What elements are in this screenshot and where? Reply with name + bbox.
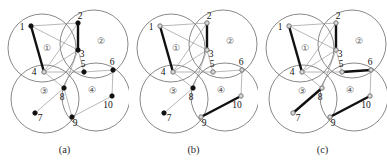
node-1[interactable]: [29, 24, 33, 28]
thin-edge-1-2: [289, 23, 336, 26]
node-5[interactable]: [82, 70, 86, 74]
node-label-6: 6: [368, 57, 373, 67]
node-6[interactable]: [240, 68, 244, 72]
thin-edge-8-9: [64, 88, 72, 117]
node-label-2: 2: [336, 11, 341, 21]
thin-edge-1-2: [160, 23, 207, 26]
node-2[interactable]: [76, 21, 80, 25]
cluster-label-4: ④: [217, 85, 225, 95]
node-label-6: 6: [239, 57, 244, 67]
node-label-1: 1: [149, 22, 154, 32]
cluster-circle-2: [318, 10, 386, 78]
panel-b: ①②③④12345678910 (b): [129, 0, 258, 168]
node-5[interactable]: [340, 70, 344, 74]
node-8[interactable]: [62, 86, 66, 90]
thin-edge-1-2: [31, 23, 78, 26]
node-label-1: 1: [20, 22, 25, 32]
node-label-10: 10: [232, 100, 242, 110]
node-6[interactable]: [369, 68, 373, 72]
node-7[interactable]: [291, 111, 295, 115]
cluster-labels-group: ①②③④: [169, 36, 234, 96]
node-label-3: 3: [80, 49, 85, 59]
node-label-9: 9: [202, 118, 207, 128]
node-1[interactable]: [158, 24, 162, 28]
node-8[interactable]: [191, 86, 195, 90]
node-1[interactable]: [287, 24, 291, 28]
cluster-circle-2: [189, 10, 257, 78]
node-10[interactable]: [368, 94, 372, 98]
node-label-3: 3: [209, 49, 214, 59]
cluster-circle-2: [60, 10, 128, 78]
node-label-8: 8: [60, 92, 65, 102]
node-4[interactable]: [171, 70, 175, 74]
node-label-6: 6: [110, 57, 115, 67]
cluster-label-4: ④: [88, 85, 96, 95]
node-label-4: 4: [32, 67, 37, 77]
thin-edge-5-6: [84, 70, 113, 72]
node-label-4: 4: [290, 67, 295, 77]
thin-edge-6-10: [112, 70, 113, 96]
panel-c-caption: (c): [258, 143, 387, 157]
node-7[interactable]: [33, 111, 37, 115]
cluster-label-4: ④: [346, 85, 354, 95]
thin-edge-6-10: [370, 70, 371, 96]
panel-b-diagram: ①②③④12345678910: [129, 0, 258, 150]
thin-edge-5-6: [213, 70, 242, 72]
thin-edge-3-8: [322, 50, 336, 88]
cluster-label-3: ③: [298, 86, 306, 96]
thin-edge-3-8: [64, 50, 78, 88]
node-label-4: 4: [161, 67, 166, 77]
panel-b-caption: (b): [129, 143, 258, 157]
nodes-group: 12345678910: [149, 11, 245, 128]
cluster-label-2: ②: [226, 36, 234, 46]
cluster-label-2: ②: [355, 36, 363, 46]
cluster-labels-group: ①②③④: [298, 36, 363, 96]
nodes-group: 12345678910: [278, 11, 374, 128]
node-4[interactable]: [300, 70, 304, 74]
cluster-label-2: ②: [97, 36, 105, 46]
node-10[interactable]: [239, 94, 243, 98]
panel-c-diagram: ①②③④12345678910: [258, 0, 387, 150]
node-label-5: 5: [81, 59, 86, 69]
node-label-7: 7: [38, 113, 43, 123]
node-label-1: 1: [278, 22, 283, 32]
node-label-10: 10: [361, 100, 371, 110]
node-5[interactable]: [211, 70, 215, 74]
node-10[interactable]: [110, 94, 114, 98]
node-label-9: 9: [73, 118, 78, 128]
node-label-10: 10: [103, 100, 113, 110]
panel-a-diagram: ①②③④12345678910: [0, 0, 129, 150]
cluster-labels-group: ①②③④: [40, 36, 105, 96]
cluster-label-3: ③: [169, 86, 177, 96]
thin-edge-3-8: [193, 50, 207, 88]
cluster-label-1: ①: [43, 43, 51, 53]
node-2[interactable]: [334, 21, 338, 25]
panel-c: ①②③④12345678910 (c): [258, 0, 387, 168]
thick-edge-5-6: [342, 70, 371, 72]
node-label-7: 7: [296, 113, 301, 123]
clustering-figure: ①②③④12345678910 (a) ①②③④12345678910 (b) …: [0, 0, 387, 168]
cluster-label-1: ①: [172, 43, 180, 53]
node-label-2: 2: [78, 11, 83, 21]
thin-edge-6-10: [241, 70, 242, 96]
node-label-7: 7: [167, 113, 172, 123]
panel-a-caption: (a): [0, 143, 129, 157]
node-4[interactable]: [42, 70, 46, 74]
node-label-5: 5: [339, 59, 344, 69]
node-6[interactable]: [111, 68, 115, 72]
node-label-8: 8: [189, 92, 194, 102]
node-label-9: 9: [331, 118, 336, 128]
node-7[interactable]: [162, 111, 166, 115]
cluster-label-3: ③: [40, 86, 48, 96]
node-label-5: 5: [210, 59, 215, 69]
node-label-3: 3: [338, 49, 343, 59]
cluster-label-1: ①: [301, 43, 309, 53]
node-label-2: 2: [207, 11, 212, 21]
node-8[interactable]: [320, 86, 324, 90]
node-2[interactable]: [205, 21, 209, 25]
node-label-8: 8: [318, 92, 323, 102]
panel-a: ①②③④12345678910 (a): [0, 0, 129, 168]
nodes-group: 12345678910: [20, 11, 116, 128]
